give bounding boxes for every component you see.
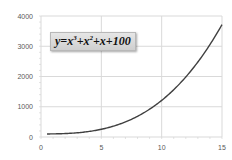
svg-text:0: 0: [39, 144, 43, 151]
svg-text:0: 0: [29, 134, 33, 141]
y-axis-labels: 01000200030004000: [17, 13, 33, 141]
svg-text:15: 15: [218, 144, 226, 151]
equation-part: y=x: [55, 34, 73, 48]
equation-part: +x: [77, 34, 90, 48]
equation-label: y=x3+x2+x+100: [50, 32, 136, 51]
chart: 01000200030004000 051015: [0, 0, 232, 160]
svg-text:4000: 4000: [17, 13, 33, 20]
x-axis-labels: 051015: [39, 144, 226, 151]
equation-part: +x+100: [93, 34, 131, 48]
svg-text:5: 5: [99, 144, 103, 151]
svg-text:2000: 2000: [17, 73, 33, 80]
svg-text:3000: 3000: [17, 43, 33, 50]
svg-text:1000: 1000: [17, 103, 33, 110]
svg-text:10: 10: [158, 144, 166, 151]
